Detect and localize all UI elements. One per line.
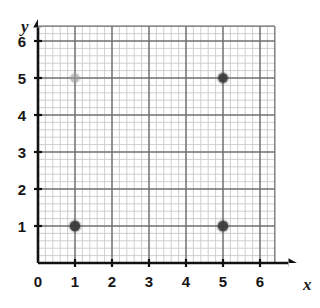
x-axis-label: x — [302, 275, 312, 294]
x-tick-label: 1 — [71, 273, 79, 290]
y-tick-label: 2 — [18, 181, 26, 198]
point-marker — [70, 221, 80, 231]
x-tick-label: 6 — [256, 273, 264, 290]
x-tick-label: 5 — [219, 273, 227, 290]
x-tick-label: 4 — [182, 273, 191, 290]
point-marker — [70, 73, 79, 82]
y-tick-label: 4 — [18, 107, 27, 124]
point-marker — [218, 221, 228, 231]
point-marker — [218, 73, 228, 83]
y-tick-label: 5 — [18, 70, 26, 87]
y-axis-label: y — [19, 17, 29, 36]
coordinate-plane-figure: 0123456 123456 y x — [0, 0, 320, 308]
coordinate-plane-svg: 0123456 123456 y x — [0, 0, 320, 308]
data-point-5-5 — [217, 72, 230, 85]
y-tick-label: 3 — [18, 144, 26, 161]
x-tick-label: 2 — [108, 273, 116, 290]
data-point-1-5 — [69, 72, 81, 84]
x-tick-label: 0 — [34, 273, 42, 290]
data-point-5-1 — [216, 219, 230, 233]
y-tick-label: 1 — [18, 218, 26, 235]
data-point-1-1 — [68, 219, 82, 233]
x-tick-label: 3 — [145, 273, 153, 290]
